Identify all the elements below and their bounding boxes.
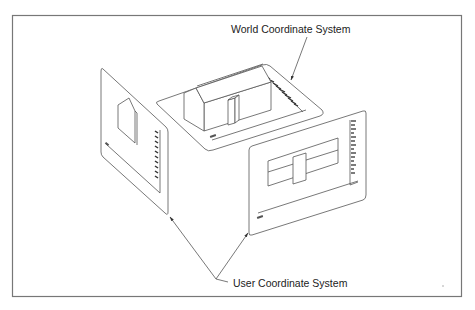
user-arrow-right (216, 233, 248, 279)
user-arrow-left (170, 217, 216, 279)
user-label-leader (216, 279, 228, 282)
user-view-right (249, 111, 366, 236)
world-coordinate-system-label: World Coordinate System (231, 23, 350, 35)
outer-frame (13, 16, 462, 297)
user-view-left (101, 68, 168, 214)
house-model (184, 64, 271, 131)
world-arrow (291, 37, 307, 80)
user-coordinate-system-label: User Coordinate System (233, 277, 347, 289)
diagram-canvas (0, 0, 475, 310)
